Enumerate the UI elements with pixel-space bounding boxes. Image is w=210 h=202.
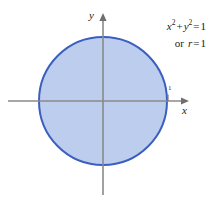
- y-axis-label: y: [89, 10, 94, 21]
- equation-polar-equals: =: [192, 37, 200, 49]
- equation-polar-value: 1: [201, 37, 207, 49]
- y-axis-arrow-icon: [99, 13, 106, 21]
- equation-cartesian-equals: =: [192, 20, 200, 32]
- equation-polar-or: or: [175, 37, 184, 49]
- figure-canvas: y x 1 x2+y2=1 orr=1: [0, 0, 210, 202]
- equation-cartesian-value: 1: [201, 20, 207, 32]
- x-axis-label: x: [182, 105, 187, 116]
- equation-polar: orr=1: [118, 37, 206, 49]
- equation-cartesian-plus: +: [175, 20, 183, 32]
- x-tick-label-1: 1: [168, 85, 172, 92]
- equation-annotation-group: x2+y2=1 orr=1: [118, 20, 206, 54]
- equation-cartesian: x2+y2=1: [118, 20, 206, 32]
